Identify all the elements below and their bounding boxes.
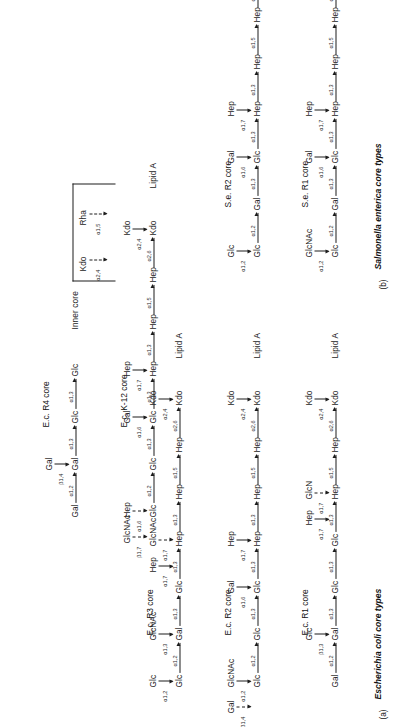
node-ec-r2-bb-2: Glc xyxy=(252,580,261,593)
link-label-ec-k12-bb-5: α1,5 xyxy=(145,297,151,308)
node-se-r1-bb-0: Glc xyxy=(330,244,339,257)
node-se-r1-bb-5: Hep xyxy=(330,6,339,22)
arrow-ec-k12-bb-2 xyxy=(153,426,154,456)
arrow-ec-r2-bb-5 xyxy=(257,455,258,485)
node-ec-r3-branch-2: GlcNAc xyxy=(148,517,157,546)
arrow-se-r2-bb-5 xyxy=(257,25,258,55)
node-ec-k12-bb-4: Hep xyxy=(148,313,157,329)
arrow-ec-k12-bb-1 xyxy=(153,473,154,503)
link-label-se-r2-bb-1: α1,2 xyxy=(249,225,255,236)
arrow-ec-r3-bb-4 xyxy=(179,502,180,532)
branch-link-ec-r2-2: α1,6 xyxy=(239,596,245,607)
node-se-r2-bb-4: Hep xyxy=(252,53,261,69)
arrow-se-r2-bb-6 xyxy=(257,0,258,7)
node-se-r1-bb-3: Hep xyxy=(330,100,339,116)
node-ec-k12-bb-1: Glc xyxy=(148,457,157,470)
core-title-se-r1: S.e. R1 core xyxy=(299,160,309,207)
branch-link-ec-r1-1: α1,7 xyxy=(317,502,323,513)
arrow-se-r2-bb-1 xyxy=(257,213,258,243)
arrow-se-r2-bb-2 xyxy=(257,166,258,196)
branch-arrow-se-r2-0 xyxy=(236,250,250,251)
node-ec-r3-bb-5: Hep xyxy=(174,436,183,452)
link-label-ec-r3-bb-2: α1,3 xyxy=(171,608,177,619)
node-se-r1-bb-1: Gal xyxy=(330,197,339,210)
branch-link-ec-r3-3: α1,7 xyxy=(161,575,167,586)
arrow-ec-r1-bb-1 xyxy=(335,643,336,673)
branch-arrow-ec-r2-0 xyxy=(236,680,250,681)
link-label-ec-r2-bb-3: α1,3 xyxy=(249,561,255,572)
node-ec-r1-branch-2: Hep xyxy=(304,509,313,525)
arrow-se-r1-bb-3 xyxy=(335,119,336,149)
node-ec-r3-branch-1: GlcNAc xyxy=(148,611,157,640)
branch-arrow-se-r2-2 xyxy=(236,109,250,110)
branch-arrow-ec-r3-4 xyxy=(158,398,172,399)
sub-arrow-ec-k12-0 xyxy=(89,259,106,260)
node-se-r2-bb-5: Hep xyxy=(252,6,261,22)
core-title-ec-r4: E.c. R4 core xyxy=(40,381,50,427)
node-ec-r4-bb-1: Gal xyxy=(70,457,79,470)
node-ec-r3-bb-4: Hep xyxy=(174,483,183,499)
node-inner-core: Inner core xyxy=(70,291,79,329)
arrow-ec-r1-bb-2 xyxy=(335,596,336,626)
core-title-se-r2: S.e. R2 core xyxy=(222,160,232,207)
link-label-se-r1-bb-1: α1,2 xyxy=(327,225,333,236)
arrow-ec-r3-bb-1 xyxy=(179,643,180,673)
arrow-ec-k12-bb-6 xyxy=(153,238,154,268)
branch-arrow-ec-r1-3 xyxy=(314,398,328,399)
arrow-ec-r1-bb-5 xyxy=(335,455,336,485)
link-label-se-r1-bb-2: α1,3 xyxy=(327,178,333,189)
arrow-ec-r2-bb-6 xyxy=(257,408,258,438)
node-ec-r2-bb-1: Glc xyxy=(252,627,261,640)
node-ec-r4-branch-0: Gal xyxy=(44,457,53,470)
branch-link-ec-r3-4: α2,4 xyxy=(161,408,167,419)
branch-arrow-ec-r3-2 xyxy=(158,539,172,540)
arrow-se-r1-bb-4 xyxy=(335,72,336,102)
branch-link-ec-r3-2: α1,7 xyxy=(161,549,167,560)
node-ec-r3-bb-0: Glc xyxy=(174,674,183,687)
node-ec-k12-branch-1: GlcNAc xyxy=(122,514,131,543)
branch-link-ec-k12-0: α1,6 xyxy=(135,520,141,531)
node-ec-r2-branch-2: Gal xyxy=(226,580,235,593)
node-ec-r3-bb-3: Hep xyxy=(174,530,183,546)
node-se-r2-bb-0: Glc xyxy=(252,244,261,257)
link-label-ec-r1-bb-3: α1,3 xyxy=(327,561,333,572)
node-se-r2-bb-2: Glc xyxy=(252,150,261,163)
link-label-ec-r2-bb-5: α1,5 xyxy=(249,467,255,478)
node-se-r1-branch-0: GlcNAc xyxy=(304,228,313,257)
panel-title-a: Escherichia coli core types xyxy=(372,588,382,699)
arrow-se-r1-bb-6 xyxy=(335,0,336,7)
branch-link-ec-k12-4: α2,4 xyxy=(135,238,141,249)
branch-link-ec-r1-0: β1,3 xyxy=(317,643,323,654)
arrow-ec-k12-bb-3 xyxy=(153,379,154,409)
branch-arrow-se-r1-2 xyxy=(314,109,328,110)
arrow-se-r1-bb-1 xyxy=(335,213,336,243)
panel-title-b: Salmonella enterica core types xyxy=(372,143,382,269)
node-ec-r3-bb-2: Glc xyxy=(174,580,183,593)
link-label-se-r2-bb-3: α1,3 xyxy=(249,131,255,142)
node-ec-k12-branch-4: Kdo xyxy=(122,220,131,235)
arrow-se-r2-bb-4 xyxy=(257,72,258,102)
arrow-ec-r1-bb-6 xyxy=(335,408,336,438)
node-ec-r1-bb-3: Glc xyxy=(330,533,339,546)
node-ec-k12-bb-6: Kdo xyxy=(148,220,157,235)
link-label-ec-r1-bb-1: α1,2 xyxy=(327,655,333,666)
link-label-se-r2-bb-5: α1,5 xyxy=(249,37,255,48)
arrow-ec-r2-bb-4 xyxy=(257,502,258,532)
link-label-ec-r4-bb-2: α1,3 xyxy=(67,438,73,449)
branch-link-se-r1-2: α1,7 xyxy=(317,119,323,130)
sub-link-ec-k12-1: α1,5 xyxy=(94,223,100,234)
core-title-ec-r2: E.c. R2 core xyxy=(222,589,232,635)
node-ec-r1-branch-1: GlcN xyxy=(304,480,313,499)
branch-arrow-ec-k12-0 xyxy=(132,510,146,511)
branch-link-ec-r4-0: β1,4 xyxy=(57,473,63,484)
branch-arrow-se-r1-1 xyxy=(314,156,328,157)
branch-link-ec-r3-1: α1,3 xyxy=(161,643,167,654)
link-label-ec-r4-bb-1: α1,2 xyxy=(67,485,73,496)
arrow-ec-r2-bb-2 xyxy=(257,596,258,626)
arrow-se-r2-bb-3 xyxy=(257,119,258,149)
node-se-r2-branch-1: Gal xyxy=(226,150,235,163)
branch-arrow-ec-k12-2 xyxy=(132,416,146,417)
branch-link-ec-r2-1: β1,4 xyxy=(239,716,245,727)
arrow-ec-r1-bb-3 xyxy=(335,549,336,579)
node-ec-r3-branch-3: Hep xyxy=(148,556,157,572)
